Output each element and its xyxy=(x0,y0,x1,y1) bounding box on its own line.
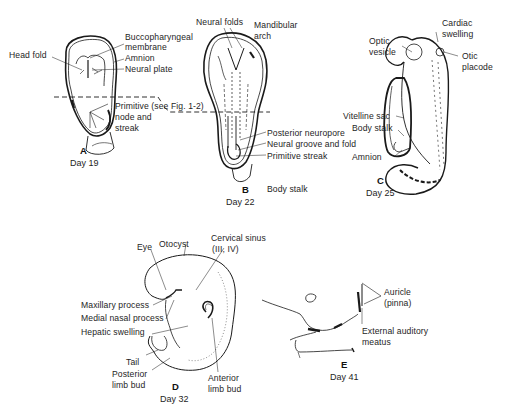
panel-letter-d: D xyxy=(172,381,179,392)
label-body-stalk-c: Body stalk xyxy=(352,123,393,133)
label-auricle-2: (pinna) xyxy=(384,298,411,308)
label-posterior-1: Posterior xyxy=(112,369,147,379)
label-posterior-neuropore: Posterior neuropore xyxy=(267,128,345,138)
day-label-c: Day 25 xyxy=(366,188,395,198)
label-posterior-2: limb bud xyxy=(112,380,145,390)
label-cervical-2: (III, IV) xyxy=(212,244,239,254)
label-medial-nasal: Medial nasal process xyxy=(81,313,164,323)
label-amnion-c: Amnion xyxy=(352,152,382,162)
label-hepatic: Hepatic swelling xyxy=(81,327,145,337)
day-label-b: Day 22 xyxy=(226,197,255,207)
label-mandibular-2: arch xyxy=(254,31,271,41)
label-cardiac-2: swelling xyxy=(442,29,473,39)
label-auricle-1: Auricle xyxy=(384,287,411,297)
panel-d-drawing xyxy=(145,244,236,372)
label-primitive-2: node and xyxy=(115,112,152,122)
embryo-drawings xyxy=(0,0,506,414)
panel-letter-e: E xyxy=(341,359,347,370)
day-label-a: Day 19 xyxy=(70,158,99,168)
label-vitelline-sac: Vitelline sac xyxy=(343,111,390,121)
label-eye: Eye xyxy=(137,242,152,252)
label-optic-2: vesicle xyxy=(369,47,396,57)
day-label-e: Day 41 xyxy=(330,372,359,382)
label-buccopharyngeal-1: Buccopharyngeal xyxy=(125,32,193,42)
label-otic-2: placode xyxy=(462,62,493,72)
panel-letter-c: C xyxy=(377,175,384,186)
label-tail: Tail xyxy=(126,357,139,367)
label-external-1: External auditory xyxy=(362,326,428,336)
label-otic-1: Otic xyxy=(462,51,478,61)
label-maxillary: Maxillary process xyxy=(81,300,149,310)
label-primitive-streak: Primitive streak xyxy=(267,151,327,161)
panel-letter-a: A xyxy=(80,145,87,156)
label-head-fold: Head fold xyxy=(9,50,47,60)
label-neural-groove: Neural groove and fold xyxy=(267,139,356,149)
label-optic-1: Optic xyxy=(369,36,390,46)
label-neural-plate: Neural plate xyxy=(125,64,173,74)
label-anterior-2: limb bud xyxy=(208,384,241,394)
label-otocyst: Otocyst xyxy=(159,239,189,249)
label-buccopharyngeal-2: membrane xyxy=(125,42,167,52)
label-primitive-3: streak xyxy=(115,123,139,133)
panel-letter-b: B xyxy=(242,184,249,195)
label-neural-folds: Neural folds xyxy=(196,17,243,27)
label-external-2: meatus xyxy=(362,337,391,347)
label-body-stalk-b: Body stalk xyxy=(267,184,308,194)
label-anterior-1: Anterior xyxy=(208,373,239,383)
day-label-d: Day 32 xyxy=(160,394,189,404)
label-cervical-1: Cervical sinus xyxy=(211,233,266,243)
label-amnion-a: Amnion xyxy=(125,53,155,63)
label-primitive-1: Primitive (see Fig. 1-2) xyxy=(115,101,204,111)
label-cardiac-1: Cardiac xyxy=(442,18,472,28)
label-mandibular-1: Mandibular xyxy=(254,20,298,30)
